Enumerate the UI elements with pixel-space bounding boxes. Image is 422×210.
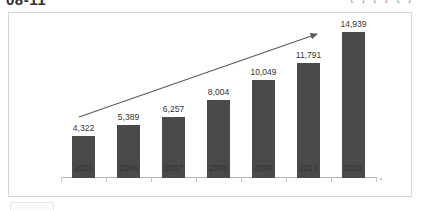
bar-category-label: 2011 bbox=[331, 163, 376, 173]
bar-value-label: 10,049 bbox=[241, 67, 286, 77]
axis-tick bbox=[61, 178, 62, 182]
bar[interactable] bbox=[342, 32, 365, 178]
axis-tick bbox=[286, 178, 287, 182]
axis-tick bbox=[151, 178, 152, 182]
bar[interactable] bbox=[297, 63, 320, 178]
bar-value-label: 6,257 bbox=[151, 104, 196, 114]
bar-category-label: 2007 bbox=[151, 163, 196, 173]
page-title: 08-11 bbox=[6, 0, 46, 8]
axis-tick bbox=[241, 178, 242, 182]
plot-area: 4,322 2005 5,389 2006 6,257 2007 8,004 2… bbox=[9, 13, 412, 197]
scan-header-strip: 08-11 [ ] [ ] [ ] bbox=[0, 0, 422, 12]
bar-category-label: 2009 bbox=[241, 163, 286, 173]
axis-tick bbox=[331, 178, 332, 182]
bar-value-label: 11,791 bbox=[286, 50, 331, 60]
chart-panel: 4,322 2005 5,389 2006 6,257 2007 8,004 2… bbox=[8, 12, 412, 197]
bar-value-label: 8,004 bbox=[196, 87, 241, 97]
header-right-marks: [ ] [ ] [ ] bbox=[350, 0, 414, 3]
bar-value-label: 5,389 bbox=[106, 112, 151, 122]
bar-category-label: 2010 bbox=[286, 163, 331, 173]
axis-tick bbox=[196, 178, 197, 182]
axis-tick bbox=[376, 178, 377, 182]
scan-artifact bbox=[10, 202, 54, 210]
bar-category-label: 2005 bbox=[61, 163, 106, 173]
scan-speck bbox=[380, 178, 382, 180]
bar-value-label: 14,939 bbox=[331, 19, 376, 29]
bar-value-label: 4,322 bbox=[61, 123, 106, 133]
axis-tick bbox=[106, 178, 107, 182]
bar-category-label: 2006 bbox=[106, 163, 151, 173]
bar-category-label: 2008 bbox=[196, 163, 241, 173]
